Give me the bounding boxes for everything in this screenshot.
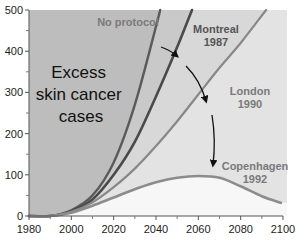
y-tick-label: 0 bbox=[17, 210, 23, 222]
x-tick-label: 1980 bbox=[17, 223, 41, 235]
x-tick-label: 2020 bbox=[101, 223, 125, 235]
y-tick-label: 400 bbox=[5, 45, 23, 57]
y-tick-label: 100 bbox=[5, 169, 23, 181]
x-tick-label: 2060 bbox=[186, 223, 210, 235]
x-tick-label: 2000 bbox=[59, 223, 83, 235]
y-tick-label: 500 bbox=[5, 4, 23, 16]
curve-label-0: No protocol bbox=[97, 16, 159, 28]
y-tick-label: 200 bbox=[5, 128, 23, 140]
chart: 0100200300400500198020002020204020602080… bbox=[0, 0, 298, 244]
x-tick-label: 2040 bbox=[144, 223, 168, 235]
x-tick-label: 2080 bbox=[228, 223, 252, 235]
y-tick-label: 300 bbox=[5, 86, 23, 98]
x-tick-label: 2100 bbox=[271, 223, 295, 235]
